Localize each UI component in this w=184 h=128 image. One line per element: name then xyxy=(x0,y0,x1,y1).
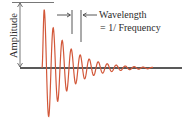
wavelength-label: Wavelength xyxy=(99,9,147,20)
wave-graphic xyxy=(0,0,184,128)
wavelength-markers xyxy=(57,10,97,42)
damped-wave-diagram: Amplitude Wavelength = 1/ Frequency xyxy=(0,0,184,128)
amplitude-label: Amplitude xyxy=(8,11,19,61)
frequency-equation-label: = 1/ Frequency xyxy=(100,22,161,33)
